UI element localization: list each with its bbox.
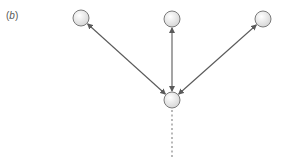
edge-bottom-center-to-top-right (179, 25, 257, 94)
node-top-right (255, 11, 271, 27)
edges-group (88, 24, 257, 94)
node-top-left (73, 10, 89, 26)
node-bottom-center (164, 92, 180, 108)
node-top-center (164, 11, 180, 27)
edge-bottom-center-to-top-left (88, 24, 166, 94)
network-diagram (0, 0, 283, 159)
